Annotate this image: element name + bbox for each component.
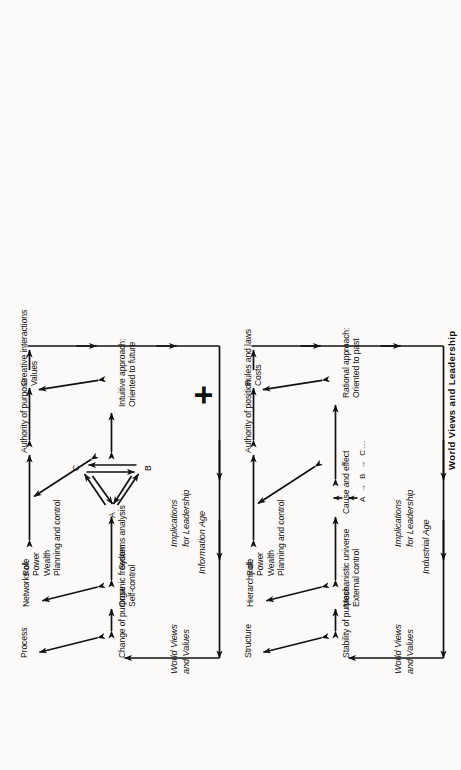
triangle-node-b: B — [142, 465, 152, 471]
information-world-view-4: Intuitive approach: Oriented to future — [116, 339, 137, 407]
era-label-industrial: Industrial Age — [420, 520, 432, 574]
industrial-world-view-3-detail: A → B → C… — [357, 439, 366, 502]
column-header-implications-information: Implications for Leadership — [168, 490, 191, 547]
information-implication-3: Authority of purpose — [18, 378, 28, 453]
industrial-implication-1: Structure — [242, 624, 252, 658]
rotated-figure-canvas: World Views and Leadership Industrial Ag… — [0, 0, 461, 770]
industrial-world-view-3: Cause and effect — [340, 451, 350, 514]
triangle-node-c: C — [70, 465, 80, 471]
figure-page: World Views and Leadership Industrial Ag… — [0, 0, 461, 770]
figure-title: World Views and Leadership — [446, 331, 456, 470]
industrial-world-view-2: Mechanistic universe External control — [340, 529, 361, 607]
column-header-world-views-information: World Views and Values — [168, 624, 191, 674]
information-implication-1: Process — [18, 628, 28, 658]
column-header-implications-industrial: Implications for Leadership — [392, 490, 415, 547]
plus-symbol: + — [185, 385, 219, 405]
industrial-implication-3: Authority of position — [242, 380, 252, 453]
industrial-implication-4: Rules and laws Costs — [242, 329, 263, 386]
information-world-view-3: Systems analysis — [116, 505, 126, 570]
information-implication-4: Creative interactions Values — [18, 310, 39, 386]
era-label-information: Information Age — [196, 511, 208, 574]
industrial-implication-2-items: Role Power Wealth Planning and control — [244, 500, 286, 576]
column-header-world-views-industrial: World Views and Values — [392, 624, 415, 674]
triangle-node-a: A — [106, 512, 116, 518]
information-implication-2-items: Role Power Wealth Planning and control — [20, 500, 62, 576]
industrial-world-view-4: Rational approach: Oriented to past — [340, 328, 361, 398]
